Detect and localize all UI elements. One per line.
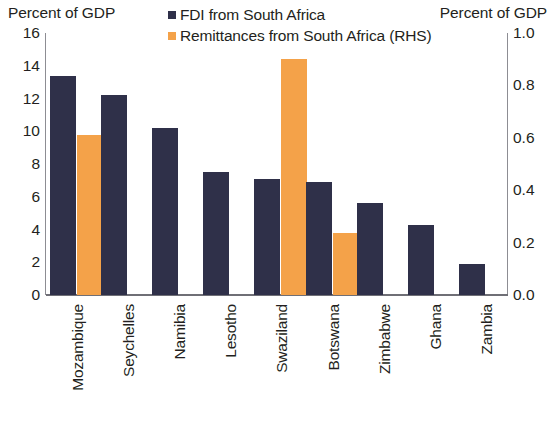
- category-label: Seychelles: [120, 304, 138, 377]
- bar-remittances[interactable]: [333, 233, 359, 295]
- left-tick-label: 6: [6, 189, 40, 205]
- bar-group: [254, 33, 305, 295]
- right-tick-label: 0.4: [513, 182, 549, 198]
- bar-remittances[interactable]: [281, 59, 307, 295]
- left-tick-label: 14: [6, 58, 40, 74]
- left-tick-label: 8: [6, 156, 40, 172]
- right-tick-label: 0.0: [513, 287, 549, 303]
- square-swatch-navy-icon: [168, 11, 176, 19]
- bar-group: [357, 33, 408, 295]
- category-label: Zambia: [478, 304, 496, 354]
- right-tick-label: 1.0: [513, 25, 549, 41]
- right-tick-label: 0.2: [513, 235, 549, 251]
- bar-group: [306, 33, 357, 295]
- left-tick-label: 0: [6, 287, 40, 303]
- left-axis-ticks: 0246810121416: [0, 0, 40, 421]
- bar-fdi[interactable]: [408, 225, 434, 295]
- category-label: Ghana: [427, 304, 445, 350]
- bar-group: [50, 33, 101, 295]
- left-tick-label: 10: [6, 123, 40, 139]
- bar-group: [459, 33, 510, 295]
- bar-fdi[interactable]: [203, 172, 229, 295]
- left-tick-label: 12: [6, 91, 40, 107]
- category-label: Botswana: [325, 304, 343, 370]
- bar-group: [203, 33, 254, 295]
- right-tick-label: 0.8: [513, 77, 549, 93]
- bar-group: [408, 33, 459, 295]
- bar-fdi[interactable]: [357, 203, 383, 295]
- category-label: Zimbabwe: [376, 304, 394, 374]
- category-label: Swaziland: [273, 304, 291, 373]
- bar-fdi[interactable]: [50, 76, 76, 295]
- category-label: Lesotho: [222, 304, 240, 358]
- bar-remittances[interactable]: [77, 135, 103, 295]
- category-label: Mozambique: [69, 304, 87, 391]
- bar-fdi[interactable]: [254, 179, 280, 295]
- bar-group: [152, 33, 203, 295]
- plot-area: [46, 33, 506, 295]
- bar-fdi[interactable]: [459, 264, 485, 295]
- category-label: Namibia: [171, 304, 189, 359]
- right-axis-ticks: 0.00.20.40.60.81.0: [513, 0, 553, 421]
- legend-item-fdi: FDI from South Africa: [168, 4, 468, 25]
- left-tick-label: 4: [6, 222, 40, 238]
- right-tick-label: 0.6: [513, 130, 549, 146]
- legend-label-fdi: FDI from South Africa: [180, 6, 325, 24]
- bar-fdi[interactable]: [306, 182, 332, 295]
- left-tick-label: 16: [6, 25, 40, 41]
- chart-figure: Percent of GDP Percent of GDP FDI from S…: [0, 0, 553, 421]
- bar-group: [101, 33, 152, 295]
- left-tick-label: 2: [6, 254, 40, 270]
- bar-fdi[interactable]: [101, 95, 127, 295]
- bar-fdi[interactable]: [152, 128, 178, 295]
